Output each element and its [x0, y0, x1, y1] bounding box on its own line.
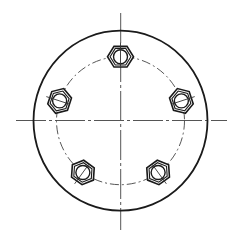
bolt-left	[46, 85, 74, 116]
bolt-bottom-right	[142, 156, 175, 188]
bolt-top	[108, 43, 134, 67]
bolt-flange-drawing	[0, 0, 235, 242]
bolt-right	[168, 85, 196, 116]
